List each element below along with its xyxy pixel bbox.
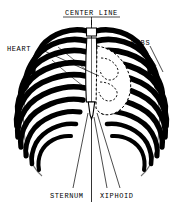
manubrium bbox=[87, 28, 97, 36]
rib-cage-diagram: CENTER LINE HEART RIBS STERNUM XIPHOID bbox=[0, 0, 181, 214]
label-center-line: CENTER LINE bbox=[65, 9, 118, 17]
label-xiphoid: XIPHOID bbox=[100, 192, 134, 200]
rib-cage-illustration: CENTER LINE HEART RIBS STERNUM XIPHOID bbox=[0, 0, 181, 214]
label-heart: HEART bbox=[7, 45, 31, 53]
label-sternum: STERNUM bbox=[50, 192, 84, 200]
label-ribs: RIBS bbox=[131, 39, 150, 47]
